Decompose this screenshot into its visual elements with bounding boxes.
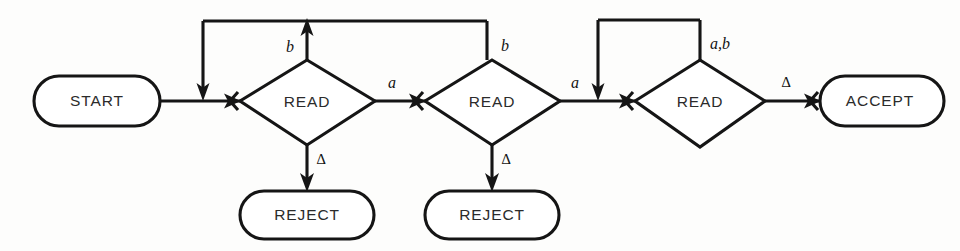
edge-label-read3-ab: a,b <box>710 35 730 52</box>
edge-start-to-read1 <box>160 92 241 110</box>
flowchart-canvas: START READ READ READ REJECT REJECT <box>0 0 960 251</box>
node-accept-label: ACCEPT <box>846 92 914 109</box>
edge-read1-to-reject1 <box>300 145 314 192</box>
flowchart-diagram: START READ READ READ REJECT REJECT <box>0 0 960 251</box>
edge-label-read2-blank: ∆ <box>501 151 510 167</box>
node-read-1-label: READ <box>284 93 331 110</box>
edge-read2-to-reject2 <box>485 145 499 192</box>
node-start-label: START <box>70 92 124 109</box>
node-read-1[interactable]: READ <box>240 60 375 145</box>
edge-read1-to-read2 <box>375 92 426 110</box>
node-accept[interactable]: ACCEPT <box>820 76 944 126</box>
node-reject-1-label: REJECT <box>274 206 340 223</box>
node-start[interactable]: START <box>34 76 160 126</box>
edge-label-read3-blank: ∆ <box>781 74 790 90</box>
node-reject-2[interactable]: REJECT <box>425 191 559 239</box>
edge-label-read2-b: b <box>501 37 509 54</box>
edge-label-read1-a: a <box>388 74 396 91</box>
edge-read3-to-accept <box>765 92 821 110</box>
edge-label-read1-blank: ∆ <box>316 151 325 167</box>
node-reject-2-label: REJECT <box>459 206 525 223</box>
node-read-2-label: READ <box>469 93 516 110</box>
node-read-2[interactable]: READ <box>425 60 560 145</box>
node-read-3[interactable]: READ <box>635 60 765 147</box>
edge-label-read1-b: b <box>286 38 294 55</box>
node-reject-1[interactable]: REJECT <box>240 191 374 239</box>
node-read-3-label: READ <box>677 93 724 110</box>
edge-label-read2-a: a <box>571 74 579 91</box>
